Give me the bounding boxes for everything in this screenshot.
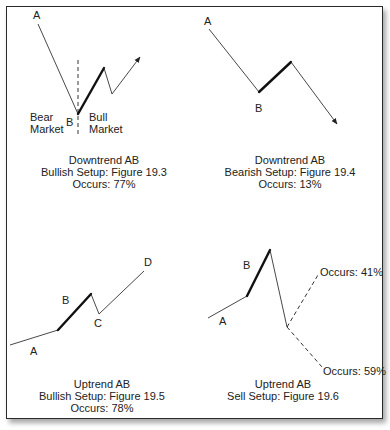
b-leg-bold: [247, 250, 270, 296]
drop-leg: [270, 250, 287, 327]
trend-arrow: [291, 62, 337, 124]
point-label-a: A: [204, 15, 212, 27]
pullback-leg: [104, 68, 112, 94]
pullback-leg: [91, 294, 99, 314]
ab-leg: [208, 296, 247, 318]
panel-uptrend-sell: A B Occurs: 41% Occurs: 59% Uptrend AB S…: [208, 250, 386, 402]
cd-leg: [99, 271, 144, 314]
caption-occurs: Occurs: 77%: [73, 178, 136, 190]
ab-leg: [209, 29, 259, 92]
caption-occurs: Occurs: 78%: [71, 402, 134, 414]
bull-label: Bull: [89, 111, 107, 123]
point-label-c: C: [94, 317, 102, 329]
point-label-a: A: [219, 315, 227, 327]
point-label-a: A: [30, 345, 38, 357]
caption-title: Uptrend AB: [255, 378, 311, 390]
point-label-b: B: [255, 102, 262, 114]
trend-arrow: [112, 57, 140, 94]
caption-setup: Bearish Setup: Figure 19.4: [225, 166, 356, 178]
ab-leg: [10, 330, 58, 345]
point-label-b: B: [243, 259, 250, 271]
bear-label: Bear: [30, 111, 54, 123]
ab-setups-diagram: A B Bear Market Bull Market Downtrend AB…: [0, 0, 390, 430]
branch-down-label: Occurs: 59%: [323, 365, 386, 377]
panel-downtrend-bearish: A B Downtrend AB Bearish Setup: Figure 1…: [204, 15, 355, 190]
bc-leg-bold: [259, 62, 291, 92]
panel-uptrend-bullish: A B C D Uptrend AB Bullish Setup: Figure…: [10, 256, 165, 414]
caption-title: Downtrend AB: [69, 154, 139, 166]
point-label-b: B: [66, 116, 73, 128]
caption-occurs: Occurs: 13%: [259, 178, 322, 190]
bc-leg-bold: [78, 68, 104, 114]
panel-downtrend-bullish: A B Bear Market Bull Market Downtrend AB…: [30, 9, 167, 190]
caption-setup: Bullish Setup: Figure 19.5: [39, 390, 165, 402]
point-label-a: A: [33, 9, 41, 21]
bull-market-label: Market: [89, 123, 123, 135]
bear-market-label: Market: [30, 123, 64, 135]
ab-leg: [38, 24, 78, 114]
point-label-b: B: [62, 294, 69, 306]
point-label-d: D: [144, 256, 152, 268]
caption-setup: Sell Setup: Figure 19.6: [227, 390, 339, 402]
branch-up-label: Occurs: 41%: [320, 266, 383, 278]
caption-setup: Bullish Setup: Figure 19.3: [41, 166, 167, 178]
caption-title: Uptrend AB: [74, 378, 130, 390]
branch-up-dashed: [287, 275, 318, 327]
branch-down-dashed: [287, 327, 322, 367]
caption-title: Downtrend AB: [255, 154, 325, 166]
